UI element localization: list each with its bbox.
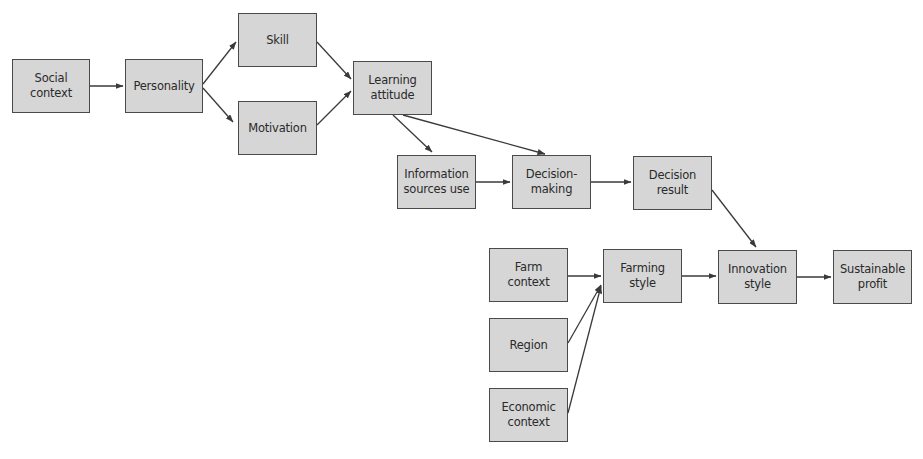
- node-motivation: Motivation: [238, 101, 317, 155]
- node-label: Region: [509, 338, 547, 353]
- node-label: Farm context: [508, 260, 550, 290]
- arrow-learning-attitude-to-information-sources-use: [393, 115, 432, 152]
- node-label: Economic context: [501, 400, 555, 430]
- node-region: Region: [489, 318, 568, 372]
- arrow-decision-result-to-innovation-style: [712, 190, 756, 247]
- node-label: Decision- making: [526, 167, 577, 197]
- node-label: Motivation: [248, 121, 307, 136]
- node-label: Social context: [30, 71, 72, 101]
- node-label: Learning attitude: [368, 73, 416, 103]
- arrow-personality-to-motivation: [203, 88, 233, 122]
- node-skill: Skill: [238, 13, 317, 67]
- flowchart-diagram: Social context Personality Skill Motivat…: [0, 0, 923, 459]
- node-label: Information sources use: [404, 167, 470, 197]
- node-farming-style: Farming style: [603, 249, 682, 303]
- node-label: Innovation style: [728, 262, 787, 292]
- node-decision-making: Decision- making: [512, 155, 591, 209]
- arrow-personality-to-skill: [203, 42, 236, 84]
- arrow-region-to-farming-style: [568, 285, 601, 343]
- node-learning-attitude: Learning attitude: [353, 61, 432, 115]
- node-label: Personality: [133, 79, 194, 94]
- node-social-context: Social context: [12, 59, 90, 113]
- arrow-learning-attitude-to-decision-making: [403, 115, 545, 154]
- node-label: Farming style: [620, 261, 665, 291]
- arrow-skill-to-learning-attitude: [317, 42, 351, 79]
- node-decision-result: Decision result: [633, 156, 712, 210]
- node-label: Skill: [266, 33, 289, 48]
- arrow-economic-context-to-farming-style: [568, 286, 601, 413]
- node-label: Sustainable profit: [840, 262, 905, 292]
- node-innovation-style: Innovation style: [718, 250, 797, 304]
- arrow-motivation-to-learning-attitude: [317, 91, 351, 125]
- node-personality: Personality: [125, 59, 203, 113]
- node-economic-context: Economic context: [489, 388, 568, 442]
- node-sustainable-profit: Sustainable profit: [833, 250, 912, 304]
- node-farm-context: Farm context: [489, 248, 568, 302]
- node-information-sources-use: Information sources use: [397, 155, 476, 209]
- node-label: Decision result: [649, 168, 696, 198]
